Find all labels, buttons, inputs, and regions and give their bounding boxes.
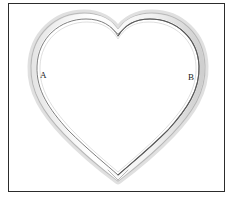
figure-root: A B xyxy=(0,0,234,200)
heart-band-inner-highlight xyxy=(40,22,196,172)
heart-band-inner-contour xyxy=(37,19,199,175)
heart-band-outer-contour xyxy=(31,13,205,181)
vertex-label-b: B xyxy=(188,73,194,82)
heart-band-shadow xyxy=(31,13,205,181)
heart-loop-illustration xyxy=(0,0,234,200)
vertex-label-a: A xyxy=(40,71,47,80)
heart-band-body xyxy=(34,16,202,178)
